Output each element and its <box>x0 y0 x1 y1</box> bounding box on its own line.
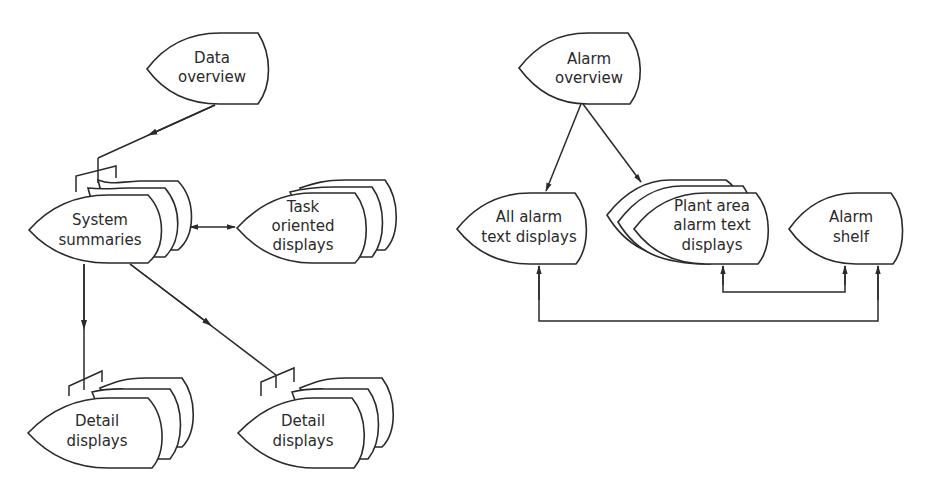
detail-right-label-2: displays <box>272 432 333 450</box>
alarm-overview-node: Alarm overview <box>519 33 640 104</box>
plant-area-label-3: displays <box>681 236 742 254</box>
all-alarm-label-1: All alarm <box>496 208 562 226</box>
system-summaries-label-2: summaries <box>58 231 141 249</box>
all-alarm-label-2: text displays <box>481 228 577 246</box>
task-oriented-label-2: oriented <box>272 217 335 235</box>
data-overview-node: Data overview <box>147 33 269 104</box>
plant-area-label-2: alarm text <box>673 216 751 234</box>
arrow-alarm-to-all <box>546 104 581 191</box>
detail-left-label-2: displays <box>66 432 127 450</box>
detail-displays-left-node: Detail displays <box>28 378 193 468</box>
task-oriented-label-1: Task <box>286 198 320 216</box>
task-oriented-label-3: displays <box>272 236 333 254</box>
arrow-all-shelf <box>539 266 878 321</box>
alarm-shelf-label-1: Alarm <box>829 208 873 226</box>
arrow-plant-shelf <box>723 266 845 292</box>
alarm-shelf-label-2: shelf <box>833 228 870 246</box>
task-oriented-node: Task oriented displays <box>237 180 396 263</box>
arrow-data-to-system <box>76 105 215 192</box>
alarm-overview-label-2: overview <box>555 69 623 87</box>
data-overview-label-1: Data <box>194 49 230 67</box>
detail-right-label-1: Detail <box>281 412 325 430</box>
data-overview-label-2: overview <box>178 68 246 86</box>
arrow-alarm-to-plant <box>583 104 641 182</box>
arrow-system-to-detail-left <box>69 264 102 396</box>
system-summaries-node: System summaries <box>29 180 192 263</box>
system-summaries-label-1: System <box>72 211 128 229</box>
display-hierarchy-diagram: Data overview System summaries Task orie… <box>0 0 929 500</box>
plant-area-label-1: Plant area <box>674 197 750 215</box>
plant-area-node: Plant area alarm text displays <box>607 180 768 264</box>
arrow-system-to-detail-right <box>130 264 294 396</box>
alarm-overview-label-1: Alarm <box>567 50 611 68</box>
detail-left-label-1: Detail <box>75 412 119 430</box>
alarm-shelf-node: Alarm shelf <box>789 193 903 264</box>
all-alarm-node: All alarm text displays <box>457 193 586 264</box>
